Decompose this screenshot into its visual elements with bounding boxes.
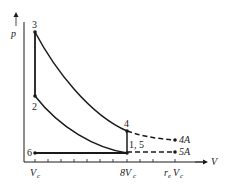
cycle-lines xyxy=(35,32,175,153)
point-6 xyxy=(33,151,37,155)
label-point-6: 6 xyxy=(27,147,32,158)
label-point-4a: 4A xyxy=(179,134,191,145)
svg-text:c: c xyxy=(133,172,137,180)
svg-text:8V: 8V xyxy=(120,167,133,178)
label-point-1-5: 1, 5 xyxy=(129,139,144,150)
state-points xyxy=(33,30,177,155)
point-4 xyxy=(125,129,129,133)
svg-text:c: c xyxy=(37,172,41,180)
point-4a xyxy=(173,138,177,142)
x-axis-label: V xyxy=(211,156,219,167)
label-point-4: 4 xyxy=(124,118,129,129)
tick-label-8vc: 8V c xyxy=(120,167,137,180)
tick-label-revc: r e V c xyxy=(164,167,184,180)
point-3 xyxy=(33,30,37,34)
expansion-curve xyxy=(35,32,127,131)
point-2 xyxy=(33,94,37,98)
svg-text:e: e xyxy=(168,172,171,180)
y-axis-label: p xyxy=(10,28,16,39)
point-1 xyxy=(125,151,129,155)
label-point-2: 2 xyxy=(32,101,37,112)
label-point-5a: 5A xyxy=(179,146,191,157)
tick-label-vc: V c xyxy=(30,167,41,180)
point-5a xyxy=(173,150,177,154)
svg-text:c: c xyxy=(180,172,184,180)
label-point-3: 3 xyxy=(32,19,37,30)
pv-diagram: p V V c 8V c r e V c xyxy=(0,0,230,187)
